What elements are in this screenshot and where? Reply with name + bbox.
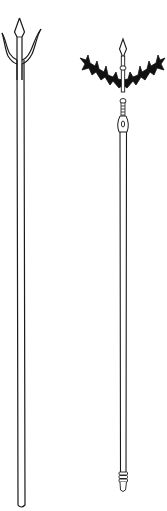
- polearms-illustration: Line drawing of two polearms: [0, 0, 167, 511]
- trident-icon: [2, 18, 41, 507]
- spiked-crescent-polearm-icon: [80, 39, 165, 492]
